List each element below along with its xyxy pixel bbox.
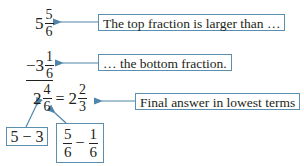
bottom-fraction: 1 6 xyxy=(45,50,54,81)
fraction-calc-b: 1 6 xyxy=(89,127,99,160)
fraction-calc-a-den: 6 xyxy=(64,144,72,160)
whole-calc-b: 3 xyxy=(36,128,44,146)
fraction-calc-a: 5 6 xyxy=(63,127,73,160)
bottom-sign: − xyxy=(26,57,36,74)
simplified-denominator: 3 xyxy=(79,99,86,114)
top-numerator: 5 xyxy=(45,8,54,24)
result-whole: 2 xyxy=(33,90,42,107)
subtraction-rule xyxy=(26,80,53,81)
bottom-mixed-number: − 3 1 6 xyxy=(26,50,54,81)
bottom-whole: 3 xyxy=(36,57,45,74)
top-whole: 5 xyxy=(35,15,44,32)
callout-top: The top fraction is larger than … xyxy=(98,14,285,31)
top-denominator: 6 xyxy=(46,24,53,39)
arrow-fraction-calc xyxy=(55,113,66,123)
result-numerator: 4 xyxy=(43,83,52,99)
result-denominator: 6 xyxy=(44,99,51,114)
fraction-calc-op: − xyxy=(75,134,84,152)
simplified-numerator: 2 xyxy=(78,83,87,99)
equals-sign: = xyxy=(56,91,65,107)
whole-calc-a: 5 xyxy=(10,128,18,146)
result-equation: 2 4 6 = 2 2 3 xyxy=(33,83,87,114)
fraction-calc-a-num: 5 xyxy=(63,127,73,144)
simplified-whole: 2 xyxy=(69,90,78,107)
fraction-calc-b-den: 6 xyxy=(90,144,98,160)
bottom-numerator: 1 xyxy=(45,50,54,66)
whole-calc-box: 5 − 3 xyxy=(6,127,48,146)
top-fraction: 5 6 xyxy=(45,8,54,39)
bottom-denominator: 6 xyxy=(46,66,53,81)
callout-final: Final answer in lowest terms xyxy=(135,93,300,110)
top-mixed-number: 5 5 6 xyxy=(35,8,54,39)
result-fraction: 4 6 xyxy=(43,83,52,114)
callout-bottom: … the bottom fraction. xyxy=(98,54,232,71)
whole-calc-op: − xyxy=(22,128,31,146)
fraction-calc-box: 5 6 − 1 6 xyxy=(56,123,104,163)
fraction-calc-b-num: 1 xyxy=(89,127,99,144)
simplified-fraction: 2 3 xyxy=(78,83,87,114)
